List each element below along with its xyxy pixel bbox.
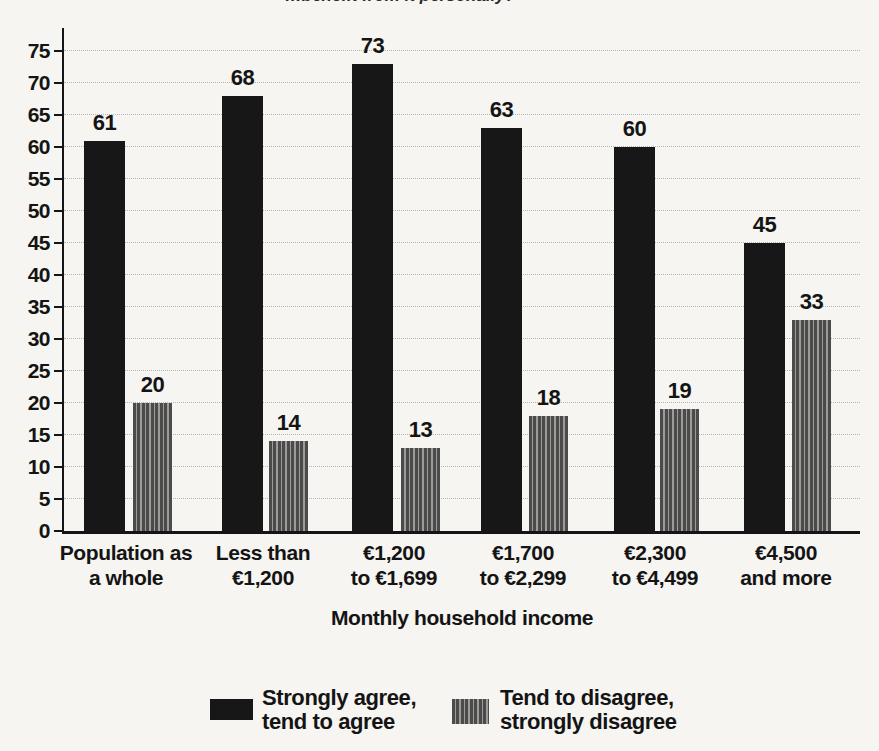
legend-swatch-striped xyxy=(452,699,489,724)
bar-tend-to-disagree xyxy=(792,320,831,531)
y-axis-tick xyxy=(54,82,62,84)
gridline xyxy=(64,370,860,371)
y-axis-tick xyxy=(54,306,62,308)
bar-value-label: 18 xyxy=(513,385,584,411)
bar-strongly-agree xyxy=(744,243,785,531)
chart-title-fragment: …benefit from it personally? xyxy=(110,0,690,6)
legend-label-line: Strongly agree, xyxy=(262,686,416,710)
y-axis-tick xyxy=(54,50,62,52)
y-axis-tick xyxy=(54,466,62,468)
y-tick-label: 25 xyxy=(0,359,50,383)
y-axis-tick xyxy=(54,178,62,180)
gridline xyxy=(64,178,860,179)
gridline xyxy=(64,50,860,51)
y-axis-tick xyxy=(54,210,62,212)
y-axis-tick xyxy=(54,530,62,532)
bar-value-label: 61 xyxy=(68,110,141,136)
gridline xyxy=(64,338,860,339)
bar-value-label: 19 xyxy=(644,378,715,404)
gridline xyxy=(64,402,860,403)
y-tick-label: 5 xyxy=(0,487,50,511)
gridline xyxy=(64,242,860,243)
y-axis-tick xyxy=(54,146,62,148)
category-label-line: and more xyxy=(706,565,866,590)
bar-value-label: 68 xyxy=(206,65,279,91)
gridline xyxy=(64,434,860,435)
y-axis-tick xyxy=(54,370,62,372)
legend-label: Tend to disagree,strongly disagree xyxy=(500,686,677,734)
y-tick-label: 55 xyxy=(0,167,50,191)
scanned-bar-chart: …benefit from it personally? 61687363604… xyxy=(0,0,879,751)
bar-value-label: 14 xyxy=(253,410,324,436)
bar-tend-to-disagree xyxy=(269,441,308,531)
bar-tend-to-disagree xyxy=(401,448,440,531)
y-axis-tick xyxy=(54,498,62,500)
gridline xyxy=(64,498,860,499)
bar-strongly-agree xyxy=(222,96,263,531)
legend-label-line: Tend to disagree, xyxy=(500,686,677,710)
bar-value-label: 20 xyxy=(117,372,188,398)
gridline xyxy=(64,146,860,147)
y-tick-label: 15 xyxy=(0,423,50,447)
y-tick-label: 45 xyxy=(0,231,50,255)
plot-area: 616873636045201413181933 xyxy=(62,28,860,534)
bar-value-label: 13 xyxy=(385,417,456,443)
gridline xyxy=(64,210,860,211)
y-tick-label: 70 xyxy=(0,71,50,95)
y-tick-label: 35 xyxy=(0,295,50,319)
bar-strongly-agree xyxy=(614,147,655,531)
category-label-line: a whole xyxy=(46,565,206,590)
y-tick-label: 50 xyxy=(0,199,50,223)
y-tick-label: 30 xyxy=(0,327,50,351)
bar-tend-to-disagree xyxy=(660,409,699,531)
bar-value-label: 60 xyxy=(598,116,671,142)
y-tick-label: 40 xyxy=(0,263,50,287)
legend-label: Strongly agree,tend to agree xyxy=(262,686,416,734)
category-label: €4,500and more xyxy=(706,540,866,590)
gridline xyxy=(64,306,860,307)
bar-strongly-agree xyxy=(352,64,393,531)
gridline xyxy=(64,82,860,83)
bar-strongly-agree xyxy=(84,141,125,531)
category-label-line: €4,500 xyxy=(706,540,866,565)
bar-value-label: 63 xyxy=(465,97,538,123)
y-tick-label: 20 xyxy=(0,391,50,415)
y-axis-tick xyxy=(54,242,62,244)
gridline xyxy=(64,274,860,275)
chart-title-fragment-text: …benefit from it personally? xyxy=(110,0,690,6)
y-tick-label: 60 xyxy=(0,135,50,159)
y-tick-label: 10 xyxy=(0,455,50,479)
gridline xyxy=(64,466,860,467)
y-axis-tick xyxy=(54,402,62,404)
category-label: Population asa whole xyxy=(46,540,206,590)
y-axis-tick xyxy=(54,274,62,276)
bar-tend-to-disagree xyxy=(529,416,568,531)
bar-strongly-agree xyxy=(481,128,522,531)
category-label-line: Population as xyxy=(46,540,206,565)
bar-value-label: 73 xyxy=(336,33,409,59)
legend-label-line: tend to agree xyxy=(262,710,416,734)
y-axis-tick xyxy=(54,338,62,340)
bar-tend-to-disagree xyxy=(133,403,172,531)
y-axis-tick xyxy=(54,434,62,436)
bar-value-label: 33 xyxy=(776,289,847,315)
y-axis-tick xyxy=(54,114,62,116)
y-tick-label: 65 xyxy=(0,103,50,127)
gridline xyxy=(64,114,860,115)
bar-value-label: 45 xyxy=(728,212,801,238)
y-tick-label: 75 xyxy=(0,39,50,63)
y-tick-label: 0 xyxy=(0,519,50,543)
legend-swatch-solid xyxy=(210,699,253,720)
x-axis-title: Monthly household income xyxy=(122,606,802,630)
legend-label-line: strongly disagree xyxy=(500,710,677,734)
